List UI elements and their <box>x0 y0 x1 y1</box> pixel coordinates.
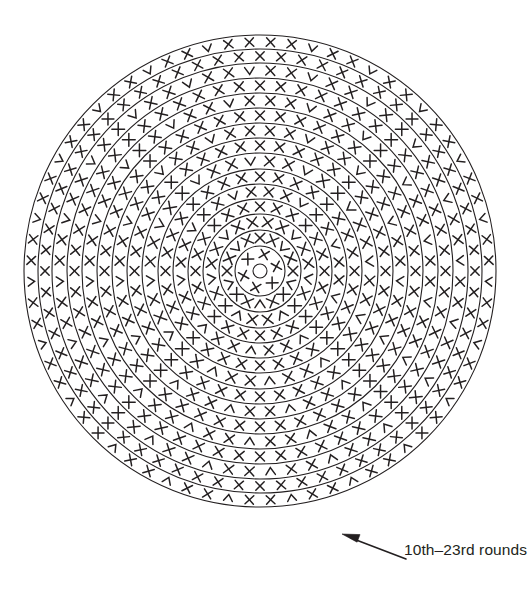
stitch-symbol-x <box>274 390 284 400</box>
stitch-symbol-x <box>334 275 344 285</box>
stitch-symbol-x <box>256 202 265 211</box>
stitch-symbol-x <box>369 410 382 423</box>
stitch-symbol-x <box>327 366 340 379</box>
stitch-symbol-x <box>109 380 122 393</box>
stitch-symbol-x <box>275 420 285 430</box>
stitch-symbol-x <box>138 410 151 423</box>
stitch-symbol-x <box>482 235 491 244</box>
stitch-symbol-v <box>245 157 256 165</box>
stitch-symbol-v <box>191 175 204 187</box>
stitch-symbol-x <box>224 39 233 48</box>
stitch-symbol-x <box>131 198 143 210</box>
stitch-symbol-v <box>143 66 154 76</box>
stitch-symbol-x <box>406 417 418 429</box>
stitch-symbol-x <box>355 191 368 204</box>
stitch-symbol-v <box>205 135 216 145</box>
stitch-symbol-x <box>364 275 374 285</box>
stitch-symbol-x <box>374 444 386 456</box>
stitch-symbol-x <box>364 155 377 168</box>
stitch-symbol-x <box>295 416 306 427</box>
stitch-symbol-x <box>104 225 115 236</box>
stitch-symbol-x <box>379 246 389 256</box>
stitch-symbol-x <box>79 204 90 215</box>
stitch-symbol-x <box>264 156 274 166</box>
stitch-symbol-x <box>288 266 298 276</box>
stitch-symbol-x <box>454 377 465 388</box>
stitch-symbol-v <box>219 230 231 242</box>
stitch-symbol-x <box>271 203 282 214</box>
stitch-symbol-x <box>320 198 333 211</box>
stitch-symbol-x <box>425 256 435 266</box>
stitch-symbol-v <box>288 230 300 242</box>
stitch-symbol-x <box>225 128 236 139</box>
stitch-symbol-x <box>112 406 125 419</box>
stitch-symbol-v <box>146 275 154 286</box>
stitch-symbol-x <box>49 328 59 338</box>
stitch-symbol-x <box>70 267 79 276</box>
stitch-symbol-x <box>352 108 364 120</box>
stitch-symbol-x <box>256 331 265 340</box>
stitch-symbol-x <box>245 126 255 136</box>
stitch-symbol-v <box>266 467 276 474</box>
stitch-symbol-x <box>165 353 178 366</box>
stitch-symbol-x <box>306 343 318 355</box>
stitch-symbol-x <box>456 277 465 286</box>
stitch-symbol-v <box>449 317 458 328</box>
stitch-symbol-x <box>205 397 217 409</box>
stitch-symbol-x <box>296 446 307 457</box>
stitch-symbol-x <box>266 436 276 446</box>
stitch-symbol-x <box>379 285 389 295</box>
stitch-symbol-x <box>363 433 375 445</box>
stitch-symbol-x <box>469 287 478 296</box>
stitch-symbol-x <box>416 427 428 439</box>
stitch-symbol-x <box>155 422 167 434</box>
stitch-symbol-x <box>71 287 81 297</box>
stitch-symbol-x <box>145 256 155 266</box>
stitch-symbol-x <box>429 204 440 215</box>
stitch-symbol-x <box>444 164 455 175</box>
stitch-symbol-x <box>264 187 274 197</box>
stitch-symbol-v <box>304 273 313 284</box>
stitch-symbol-x <box>235 142 245 152</box>
stitch-symbol-x <box>369 120 382 133</box>
stitch-symbol-x <box>386 314 398 326</box>
stitch-symbol-x <box>256 452 265 461</box>
stitch-symbol-x <box>274 142 284 152</box>
stitch-symbol-x <box>353 364 366 377</box>
stitch-symbol-v <box>353 166 365 178</box>
stitch-symbol-x <box>317 60 327 70</box>
stitch-symbol-v <box>162 476 173 486</box>
stitch-symbol-x <box>201 186 213 198</box>
stitch-symbol-x <box>464 173 475 184</box>
stitch-symbol-x <box>102 417 114 429</box>
stitch-symbol-x <box>135 304 146 315</box>
stitch-symbol-x <box>192 472 202 482</box>
stitch-symbol-x <box>131 246 141 256</box>
stitch-symbol-x <box>175 186 189 200</box>
rounds-annotation-label: 10th–23rd rounds <box>404 542 527 558</box>
mandala-rings-group <box>24 35 496 507</box>
stitch-symbol-x <box>266 495 275 504</box>
stitch-symbol-x <box>190 354 203 367</box>
stitch-symbol-x <box>155 108 167 120</box>
stitch-symbol-x <box>364 375 377 388</box>
stitch-symbol-x <box>417 215 428 226</box>
stitch-symbol-x <box>223 464 233 474</box>
stitch-symbol-v <box>198 321 210 333</box>
stitch-symbol-x <box>198 233 210 245</box>
stitch-symbol-x <box>216 146 227 157</box>
stitch-symbol-x <box>406 113 418 125</box>
ring-boundary-4 <box>173 184 347 358</box>
stitch-symbol-x <box>245 38 254 47</box>
stitch-symbol-x <box>144 375 157 388</box>
stitch-symbol-x <box>45 173 56 184</box>
stitch-symbol-x <box>44 224 54 234</box>
stitch-symbol-v <box>347 476 358 486</box>
stitch-symbol-x <box>159 388 172 401</box>
stitch-symbol-x <box>161 267 170 276</box>
stitch-symbol-x <box>75 174 87 186</box>
stitch-symbol-x <box>384 76 396 88</box>
stitch-symbol-x <box>28 298 37 307</box>
stitch-symbol-x <box>45 358 56 369</box>
stitch-symbol-x <box>435 224 446 235</box>
